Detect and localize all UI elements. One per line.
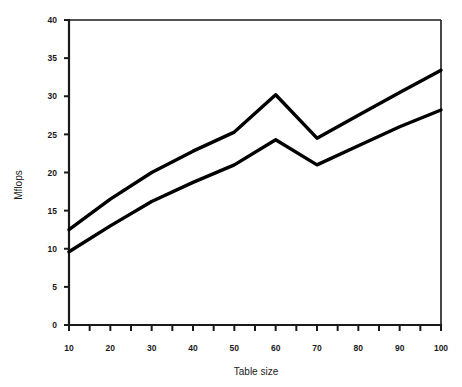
x-tick-label: 60	[271, 343, 281, 353]
x-tick-label: 40	[188, 343, 198, 353]
x-tick-label: 70	[312, 343, 322, 353]
y-tick-label: 40	[48, 15, 58, 25]
y-tick-label: 25	[48, 130, 58, 140]
x-tick-label: 50	[230, 343, 240, 353]
y-axis-title: Mflops	[13, 170, 24, 199]
x-tick-label: 90	[395, 343, 405, 353]
data-series-line	[69, 70, 441, 229]
y-axis-ticks: 0510152025303540	[48, 15, 69, 330]
y-tick-label: 5	[52, 282, 57, 292]
data-series-line	[69, 110, 441, 252]
chart-figure: 0510152025303540 102030405060708090100 M…	[0, 0, 462, 387]
x-axis-ticks: 102030405060708090100	[64, 325, 448, 353]
x-tick-label: 10	[64, 343, 74, 353]
y-tick-label: 0	[52, 320, 57, 330]
x-tick-label: 80	[354, 343, 364, 353]
y-tick-label: 15	[48, 206, 58, 216]
x-tick-label: 30	[147, 343, 157, 353]
axes	[69, 20, 441, 325]
y-tick-label: 30	[48, 91, 58, 101]
y-tick-label: 20	[48, 168, 58, 178]
line-chart: 0510152025303540 102030405060708090100 M…	[0, 0, 462, 387]
y-tick-label: 35	[48, 53, 58, 63]
axis-spines	[69, 20, 441, 325]
y-tick-label: 10	[48, 244, 58, 254]
data-series-group	[69, 70, 441, 251]
x-tick-label: 100	[434, 343, 448, 353]
x-tick-label: 20	[106, 343, 116, 353]
x-axis-title: Table size	[234, 366, 279, 377]
